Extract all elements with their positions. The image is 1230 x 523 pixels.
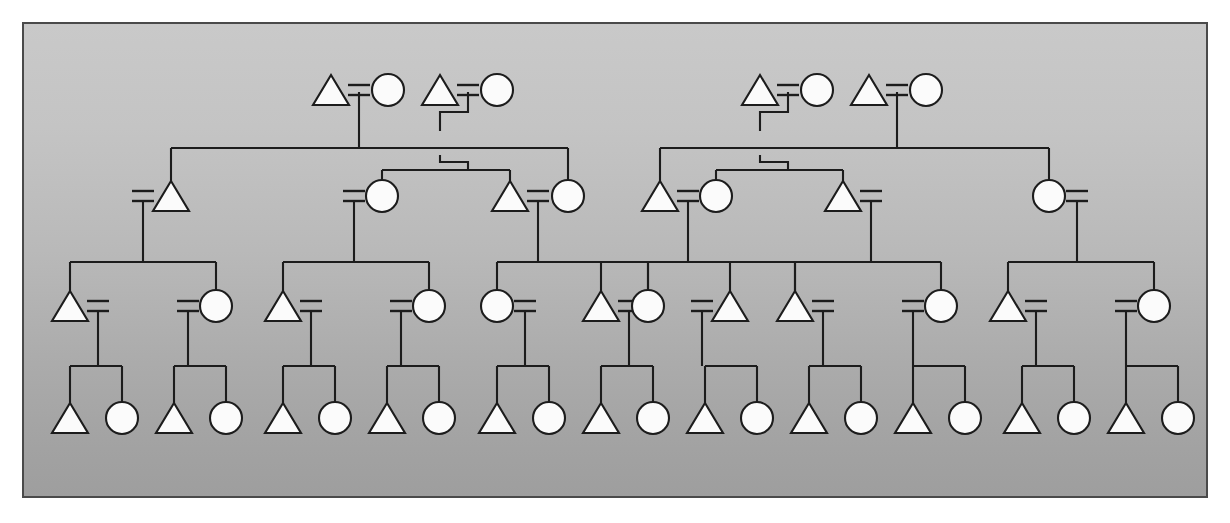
person-node-male-triangle-icon[interactable] xyxy=(777,291,813,321)
person-node-male-triangle-icon[interactable] xyxy=(791,403,827,433)
person-node-male-triangle-icon[interactable] xyxy=(52,291,88,321)
person-node-female-circle-icon[interactable] xyxy=(533,402,565,434)
person-node-male-triangle-icon[interactable] xyxy=(687,403,723,433)
person-node-male-triangle-icon[interactable] xyxy=(1108,403,1144,433)
person-node-male-triangle-icon[interactable] xyxy=(492,181,528,211)
person-node-female-circle-icon[interactable] xyxy=(925,290,957,322)
person-node-male-triangle-icon[interactable] xyxy=(265,403,301,433)
person-node-male-triangle-icon[interactable] xyxy=(895,403,931,433)
person-node-male-triangle-icon[interactable] xyxy=(1004,403,1040,433)
person-node-male-triangle-icon[interactable] xyxy=(642,181,678,211)
person-node-female-circle-icon[interactable] xyxy=(632,290,664,322)
descent-jog-line xyxy=(440,155,468,170)
person-node-female-circle-icon[interactable] xyxy=(481,74,513,106)
person-node-male-triangle-icon[interactable] xyxy=(422,75,458,105)
person-node-female-circle-icon[interactable] xyxy=(552,180,584,212)
person-node-female-circle-icon[interactable] xyxy=(845,402,877,434)
person-node-male-triangle-icon[interactable] xyxy=(742,75,778,105)
person-node-female-circle-icon[interactable] xyxy=(366,180,398,212)
person-node-male-triangle-icon[interactable] xyxy=(313,75,349,105)
person-node-female-circle-icon[interactable] xyxy=(372,74,404,106)
kinship-diagram-panel xyxy=(22,22,1208,498)
descent-jog-line xyxy=(760,155,788,170)
person-node-female-circle-icon[interactable] xyxy=(700,180,732,212)
person-node-male-triangle-icon[interactable] xyxy=(583,403,619,433)
person-node-male-triangle-icon[interactable] xyxy=(156,403,192,433)
person-node-male-triangle-icon[interactable] xyxy=(153,181,189,211)
person-node-female-circle-icon[interactable] xyxy=(1033,180,1065,212)
person-node-female-circle-icon[interactable] xyxy=(481,290,513,322)
person-node-female-circle-icon[interactable] xyxy=(1138,290,1170,322)
person-node-female-circle-icon[interactable] xyxy=(637,402,669,434)
person-node-male-triangle-icon[interactable] xyxy=(851,75,887,105)
person-node-female-circle-icon[interactable] xyxy=(910,74,942,106)
person-node-female-circle-icon[interactable] xyxy=(423,402,455,434)
person-node-male-triangle-icon[interactable] xyxy=(265,291,301,321)
descent-and-sibling-lines xyxy=(70,92,1178,403)
union-equals-symbols xyxy=(87,85,1137,311)
person-node-female-circle-icon[interactable] xyxy=(413,290,445,322)
person-node-female-circle-icon[interactable] xyxy=(801,74,833,106)
person-node-male-triangle-icon[interactable] xyxy=(52,403,88,433)
person-node-male-triangle-icon[interactable] xyxy=(583,291,619,321)
person-node-male-triangle-icon[interactable] xyxy=(369,403,405,433)
person-node-female-circle-icon[interactable] xyxy=(1058,402,1090,434)
person-node-male-triangle-icon[interactable] xyxy=(825,181,861,211)
person-node-female-circle-icon[interactable] xyxy=(1162,402,1194,434)
person-node-male-triangle-icon[interactable] xyxy=(990,291,1026,321)
person-node-female-circle-icon[interactable] xyxy=(210,402,242,434)
person-node-female-circle-icon[interactable] xyxy=(949,402,981,434)
person-node-female-circle-icon[interactable] xyxy=(741,402,773,434)
person-node-male-triangle-icon[interactable] xyxy=(712,291,748,321)
screenshot-root xyxy=(0,0,1230,523)
person-node-female-circle-icon[interactable] xyxy=(106,402,138,434)
kinship-diagram-svg xyxy=(24,24,1206,496)
person-node-female-circle-icon[interactable] xyxy=(319,402,351,434)
person-node-female-circle-icon[interactable] xyxy=(200,290,232,322)
person-node-male-triangle-icon[interactable] xyxy=(479,403,515,433)
